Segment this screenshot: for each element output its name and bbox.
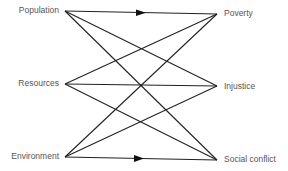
arrowhead-icon (134, 155, 144, 162)
node-population: Population (19, 6, 59, 15)
node-poverty: Poverty (224, 9, 253, 18)
arrowhead-icon (136, 10, 146, 17)
node-resources: Resources (18, 79, 59, 88)
node-social-conflict: Social conflict (224, 155, 276, 164)
node-environment: Environment (11, 152, 59, 161)
node-injustice: Injustice (224, 82, 255, 91)
edge-environment-injustice (65, 86, 217, 157)
edge-resources-poverty (65, 14, 217, 84)
